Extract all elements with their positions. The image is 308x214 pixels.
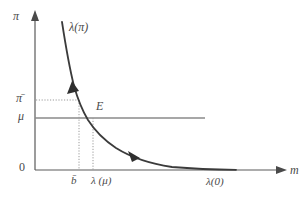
x-tick-lambda-mu: λ (μ) <box>91 175 111 186</box>
origin-label: 0 <box>19 161 25 173</box>
arrow-up-icon <box>31 10 39 21</box>
x-tick-b-bar: b̄ <box>71 175 77 186</box>
phase-diagram-figure: π m λ(π) π̄ μ 0 E b̄ λ (μ) λ(0) <box>0 0 308 214</box>
curve-label: λ(π) <box>69 21 88 33</box>
x-axis-label: m <box>290 164 299 176</box>
y-tick-pi-bar: π̄ <box>16 92 22 104</box>
y-axis-label: π <box>13 10 19 22</box>
x-tick-lambda-zero: λ(0) <box>206 176 224 187</box>
figure-canvas <box>0 0 308 214</box>
y-tick-mu: μ <box>18 110 24 122</box>
arrow-down-right-icon <box>128 151 140 162</box>
equilibrium-label: E <box>96 100 103 112</box>
lambda-pi-curve <box>62 22 236 170</box>
arrow-up-left-icon <box>67 81 79 94</box>
arrow-right-icon <box>276 166 287 174</box>
